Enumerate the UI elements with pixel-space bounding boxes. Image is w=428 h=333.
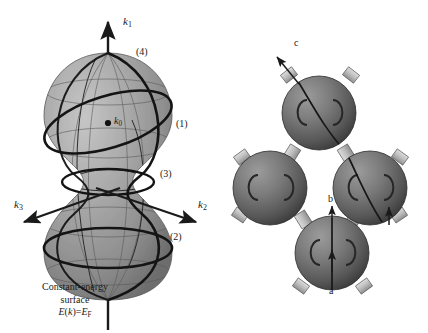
k1-axis-label: k1 — [123, 16, 132, 29]
right-panel-group — [231, 57, 408, 294]
k0-point-label: k0 — [114, 116, 122, 128]
k0-dot — [105, 120, 111, 126]
orbit-label-3: (3) — [160, 169, 172, 179]
orbit-label-2: (2) — [170, 232, 182, 242]
caption-equation: E(k)=EF — [18, 306, 132, 320]
caption-line-1: Constant-energy — [18, 281, 132, 294]
k2-axis-label: k2 — [198, 199, 207, 212]
caption-line-2: surface — [18, 294, 132, 307]
k3-axis-label: k3 — [14, 199, 23, 212]
figure-root: k1 k2 k3 k0 (4) (1) (3) (2) Constant-ene… — [0, 0, 428, 333]
sphere-group — [233, 76, 407, 290]
orbit-label-1: (1) — [176, 119, 188, 129]
neck-top-ne — [342, 67, 359, 83]
neck-bottom-se — [355, 278, 372, 294]
label-c: c — [294, 38, 298, 48]
sphere-left — [233, 151, 307, 225]
orbit-label-4: (4) — [136, 47, 148, 57]
neck-top-nw — [280, 67, 297, 83]
surface-caption: Constant-energy surface E(k)=EF — [18, 281, 132, 320]
label-b: b — [328, 194, 333, 204]
label-a: a — [329, 286, 333, 296]
sphere-right — [333, 151, 407, 225]
sphere-top — [282, 76, 356, 150]
